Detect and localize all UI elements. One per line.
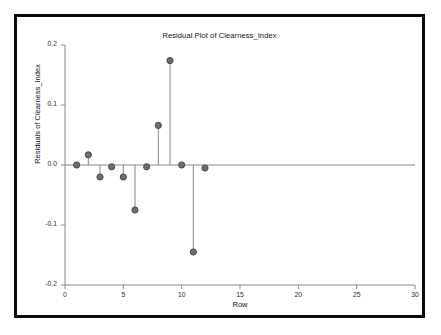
x-tick-label: 5 [111,291,135,298]
data-point-marker [155,122,161,128]
x-axis-title: Row [65,300,415,309]
data-point-marker [85,152,91,158]
y-tick-label: -0.1 [31,220,57,227]
stem-lines-group [88,61,205,252]
data-point-marker [190,249,196,255]
figure-frame: Residual Plot of Clearness_Index Residua… [14,14,425,318]
x-tick-label: 10 [170,291,194,298]
data-point-marker [179,162,185,168]
x-tick-label: 0 [53,291,77,298]
y-tick-label: 0.0 [31,160,57,167]
x-tick-label: 15 [228,291,252,298]
chart-title: Residual Plot of Clearness_Index [17,31,422,40]
x-tick-label: 30 [403,291,427,298]
data-point-marker [167,58,173,64]
y-axis-title: Residuals of Clearness_Index [26,54,40,174]
data-point-marker [132,207,138,213]
x-tick-label: 20 [286,291,310,298]
y-tick-label: 0.1 [31,100,57,107]
data-point-marker [97,174,103,180]
data-point-marker [74,162,80,168]
plot-canvas: Residual Plot of Clearness_Index Residua… [17,17,422,315]
data-points-group [74,58,209,256]
residual-scatter-plot [17,17,422,315]
screenshot-root: Residual Plot of Clearness_Index Residua… [0,0,441,335]
x-tick-label: 25 [345,291,369,298]
data-point-marker [109,164,115,170]
y-tick-label: 0.2 [31,40,57,47]
data-point-marker [144,164,150,170]
y-tick-label: -0.2 [31,280,57,287]
data-point-marker [202,165,208,171]
data-point-marker [120,174,126,180]
y-axis-title-label: Residuals of Clearness_Index [33,64,42,164]
